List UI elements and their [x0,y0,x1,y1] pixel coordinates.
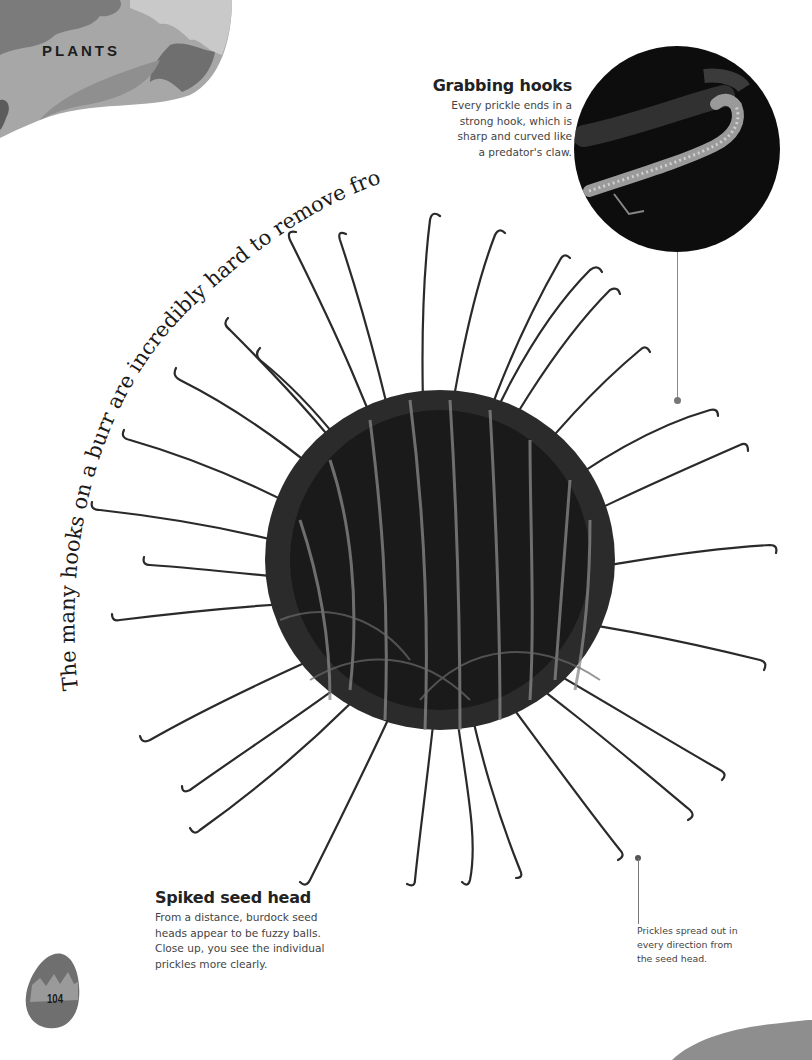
body-line: Prickles spread out in [637,925,738,936]
page-number: 104 [43,992,67,1006]
prickles-spread-note: Prickles spread out in every direction f… [637,924,777,966]
body-line: prickles more clearly. [155,958,267,970]
hook-closeup-image [574,46,780,252]
page-number-badge [22,950,84,1030]
bottom-corner-decoration [672,1020,812,1060]
body-line: From a distance, burdock seed [155,911,318,923]
body-line: every direction from [637,939,732,950]
spiked-seed-head-callout: Spiked seed head From a distance, burdoc… [155,888,355,972]
body-line: Close up, you see the individual [155,942,324,954]
spiked-seed-head-title: Spiked seed head [155,888,355,907]
body-line: Every prickle ends in a [451,99,572,111]
prickles-callout-connector [638,858,639,924]
body-line: the seed head. [637,953,707,964]
body-line: a predator's claw. [478,146,572,158]
hook-closeup-inset [574,46,780,252]
grabbing-hooks-body: Every prickle ends in a strong hook, whi… [400,98,572,160]
hook-callout-connector [677,252,678,400]
grabbing-hooks-callout: Grabbing hooks Every prickle ends in a s… [400,76,572,160]
body-line: heads appear to be fuzzy balls. [155,927,321,939]
body-line: strong hook, which is [460,115,572,127]
grabbing-hooks-title: Grabbing hooks [400,76,572,95]
body-line: sharp and curved like [458,130,572,142]
burr-core [265,390,615,730]
spiked-seed-head-body: From a distance, burdock seed heads appe… [155,910,355,972]
hook-callout-dot [674,397,681,404]
